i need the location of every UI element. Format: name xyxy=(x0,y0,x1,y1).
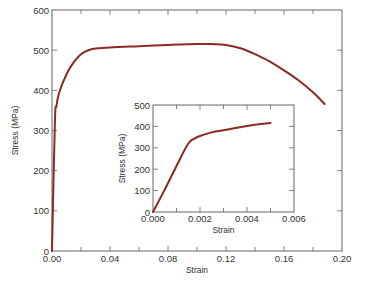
x-tick-label: 0.04 xyxy=(101,253,120,264)
y-tick-label: 500 xyxy=(33,45,49,56)
x-tick-label: 0.004 xyxy=(235,213,259,224)
y-tick-label: 600 xyxy=(33,5,49,16)
x-axis-title: Strain xyxy=(186,265,208,275)
y-tick-label: 400 xyxy=(134,121,150,132)
y-tick-label: 300 xyxy=(33,125,49,136)
y-tick-label: 300 xyxy=(134,142,150,153)
stress-strain-chart: 0.000.040.080.120.160.200100200300400500… xyxy=(0,0,366,284)
y-tick-label: 100 xyxy=(134,185,150,196)
y-tick-label: 100 xyxy=(33,205,49,216)
y-tick-label: 0 xyxy=(44,246,49,257)
x-axis-title: Strain xyxy=(212,225,234,235)
x-tick-label: 0.20 xyxy=(333,253,352,264)
x-tick-label: 0.08 xyxy=(159,253,178,264)
y-tick-label: 200 xyxy=(134,164,150,175)
y-axis-title: Stress (MPa) xyxy=(117,134,127,184)
x-tick-label: 0.12 xyxy=(217,253,236,264)
x-tick-label: 0.002 xyxy=(188,213,212,224)
y-tick-label: 200 xyxy=(33,165,49,176)
y-tick-label: 400 xyxy=(33,85,49,96)
x-tick-label: 0.006 xyxy=(282,213,306,224)
plot-frame xyxy=(153,105,294,212)
y-tick-label: 0 xyxy=(145,207,150,218)
y-tick-label: 500 xyxy=(134,100,150,111)
x-tick-label: 0.16 xyxy=(275,253,294,264)
y-axis-title: Stress (MPa) xyxy=(10,106,20,156)
